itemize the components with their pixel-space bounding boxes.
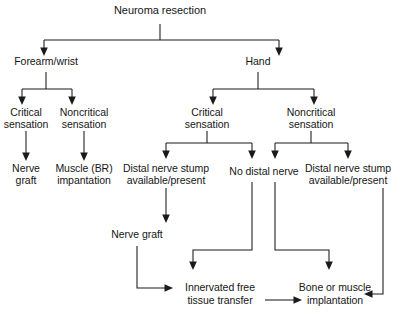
arrowhead-hand-to-noncritical [310,97,318,106]
svg-text:impantation: impantation [57,174,111,186]
arrowhead-nodistal-to-innervated [189,262,197,271]
node-bone-or-muscle-implantation: Bone or muscle implantation [299,281,371,306]
node-muscle-br-impantation: Muscle (BR) impantation [55,162,112,186]
svg-text:Nerve: Nerve [12,162,40,174]
svg-text:Noncritical: Noncritical [287,106,335,118]
arrowhead-handnoncritical-to-stumpright [344,151,352,160]
svg-text:Muscle (BR): Muscle (BR) [55,162,112,174]
arrowhead-forearm-to-noncritical [68,97,76,106]
arrowhead-fwcritical-to-nervegraft [22,153,30,162]
node-neuroma-resection: Neuroma resection [114,4,206,16]
svg-text:sensation: sensation [289,118,334,130]
node-forearm-critical-sensation: Critical sensation [4,106,49,130]
edge-nervegraft2-to-innervated [137,246,165,288]
node-forearm-noncritical-sensation: Noncritical sensation [60,106,108,130]
arrowhead-fwnoncritical-to-musclebr [80,153,88,162]
node-forearm-wrist: Forearm/wrist [14,55,78,67]
node-nerve-graft-forearm: Nerve graft [12,162,40,186]
arrowhead-forearm-to-critical [18,97,26,106]
svg-text:graft: graft [16,174,37,186]
svg-text:Noncritical: Noncritical [60,106,108,118]
svg-text:Bone or muscle: Bone or muscle [299,281,371,293]
edge-nodistal-to-bonemuscle [275,182,329,262]
arrowhead-stumpleft-to-nervegraft2 [162,215,170,224]
arrowhead-nervegraft2-to-innervated [165,284,174,292]
node-nerve-graft-hand: Nerve graft [111,228,163,240]
arrowhead-handcritical-to-nodistal [248,151,256,160]
node-innervated-free-tissue-transfer: Innervated free tissue transfer [185,281,255,306]
arrowhead-handnoncritical-to-nodistal [271,151,279,160]
svg-text:Distal nerve stump: Distal nerve stump [305,162,391,174]
edge-nodistal-to-innervated [193,182,252,262]
node-hand-noncritical-sensation: Noncritical sensation [287,106,335,130]
arrowhead-handcritical-to-stumpleft [162,151,170,160]
arrowhead-innervated-to-bonemuscle [294,296,303,304]
arrowhead-nodistal-to-bonemuscle [325,262,333,271]
svg-text:implantation: implantation [307,294,363,306]
svg-text:sensation: sensation [4,118,49,130]
edge-handnoncritical-split [275,131,348,151]
flowchart-diagram: Neuroma resection Forearm/wrist Hand Cri… [0,0,406,318]
edge-handcritical-split [166,131,252,151]
edge-stumpright-to-bonemuscle [372,188,383,294]
arrowhead-hand-to-critical [209,97,217,106]
edge-forearm-split [22,72,72,97]
nodes-group: Neuroma resection Forearm/wrist Hand Cri… [4,4,391,306]
node-distal-nerve-stump-right: Distal nerve stump available/present [305,162,391,186]
svg-text:sensation: sensation [62,118,107,130]
node-hand: Hand [246,55,271,67]
svg-text:Critical: Critical [191,106,223,118]
arrowhead-root-to-hand [275,48,283,57]
svg-text:available/present: available/present [127,174,206,186]
flowchart-canvas: Neuroma resection Forearm/wrist Hand Cri… [0,0,406,318]
svg-text:Innervated free: Innervated free [185,281,255,293]
edge-root-split [44,24,279,48]
svg-text:Distal nerve stump: Distal nerve stump [123,162,209,174]
svg-text:Critical: Critical [10,106,42,118]
svg-text:tissue transfer: tissue transfer [187,294,253,306]
edge-hand-split [213,72,314,97]
svg-text:sensation: sensation [185,118,230,130]
node-hand-critical-sensation: Critical sensation [185,106,230,130]
node-distal-nerve-stump-left: Distal nerve stump available/present [123,162,209,186]
svg-text:available/present: available/present [309,174,388,186]
node-no-distal-nerve: No distal nerve [229,165,298,177]
